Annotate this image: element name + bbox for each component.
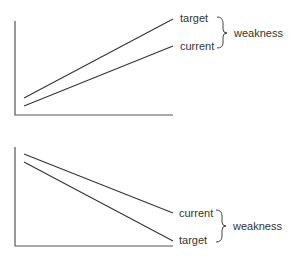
bottom-target-line	[24, 162, 173, 241]
bottom-target-label: target	[179, 234, 207, 246]
top-brace-icon	[217, 17, 227, 48]
bottom-axes	[15, 147, 173, 246]
top-weakness-label: weakness	[233, 27, 283, 39]
bottom-weakness-label: weakness	[232, 220, 282, 232]
top-current-line	[24, 46, 173, 106]
bottom-current-line	[24, 154, 173, 213]
top-target-line	[24, 19, 173, 98]
top-current-label: current	[180, 40, 214, 52]
bottom-current-label: current	[179, 207, 213, 219]
bottom-brace-icon	[216, 210, 226, 242]
diagram-canvas: target current weakness current target w…	[0, 0, 296, 262]
top-chart: target current weakness	[15, 12, 283, 115]
bottom-chart: current target weakness	[15, 147, 282, 246]
top-axes	[15, 21, 173, 115]
top-target-label: target	[180, 12, 208, 24]
